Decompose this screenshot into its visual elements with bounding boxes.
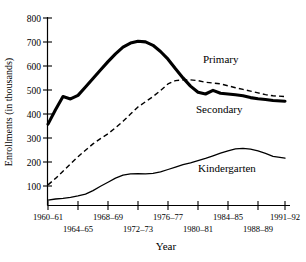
y-tick-labels: 800 700 600 500 400 300 200 100: [27, 14, 42, 192]
x-tick-label-1984-85: 1984–85: [213, 212, 243, 222]
y-tick-label-500: 500: [27, 86, 42, 96]
y-axis-title: Enrollments (in thousands): [3, 58, 15, 166]
x-tick-label-1991-92: 1991–92: [270, 212, 300, 222]
series-label-kindergarten: Kindergarten: [198, 162, 256, 174]
x-tick-label-1988-89: 1988–89: [243, 224, 273, 234]
axis-group: [48, 17, 291, 206]
enrollment-line-chart: 800 700 600 500 400 300 200 100 1960–61 …: [0, 0, 306, 262]
y-tick-label-600: 600: [27, 62, 42, 72]
x-tick-label-1968-69: 1968–69: [93, 212, 123, 222]
y-tick-label-200: 200: [27, 158, 42, 168]
series-label-primary: Primary: [203, 53, 239, 65]
x-tick-label-1980-81: 1980–81: [183, 224, 213, 234]
x-tick-label-1972-73: 1972–73: [123, 224, 153, 234]
x-tick-label-1976-77: 1976–77: [153, 212, 184, 222]
series-label-secondary: Secondary: [196, 103, 243, 115]
y-tick-label-700: 700: [27, 38, 42, 48]
y-tick-label-100: 100: [27, 182, 42, 192]
x-axis-title: Year: [156, 240, 177, 252]
x-tick-labels-top: 1960–61 1968–69 1976–77 1984–85 1991–92: [33, 212, 300, 222]
x-tick-labels-bottom: 1964–65 1972–73 1980–81 1988–89: [63, 224, 273, 234]
x-tick-label-1964-65: 1964–65: [63, 224, 93, 234]
series-line-primary: [48, 41, 285, 124]
y-tick-label-800: 800: [27, 14, 42, 24]
x-tick-label-1960-61: 1960–61: [33, 212, 63, 222]
y-tick-label-300: 300: [27, 134, 42, 144]
chart-canvas: 800 700 600 500 400 300 200 100 1960–61 …: [0, 0, 306, 262]
y-tick-label-400: 400: [27, 110, 42, 120]
series-line-kindergarten: [48, 148, 285, 200]
